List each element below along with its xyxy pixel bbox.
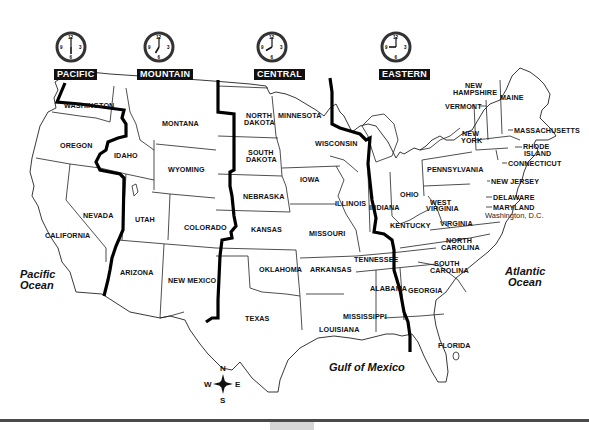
great-salt-lake (132, 184, 138, 196)
compass-n: N (220, 364, 226, 373)
label-delaware: DELAWARE (493, 193, 535, 202)
label-virginia: VIRGINIA (440, 219, 473, 228)
label-kansas: KANSAS (251, 225, 282, 234)
label-minnesota: MINNESOTA (278, 111, 322, 120)
label-new-york-2: YORK (461, 136, 483, 145)
label-north-carolina-2: CAROLINA (441, 243, 480, 252)
clock-central: 12 3 6 9 (258, 33, 286, 61)
label-south-carolina-2: CAROLINA (430, 266, 469, 275)
label-oklahoma: OKLAHOMA (259, 265, 302, 274)
label-rhode-island-2: ISLAND (524, 149, 551, 158)
label-connecticut: CONNECTICUT (508, 159, 562, 168)
label-idaho: IDAHO (114, 151, 138, 160)
label-alabama: ALABAMA (370, 284, 407, 293)
water-labels: Pacific Ocean Atlantic Ocean Gulf of Mex… (20, 265, 545, 373)
compass-w: W (204, 380, 212, 389)
label-new-jersey: NEW JERSEY (491, 177, 539, 186)
zone-label-central: CENTRAL (254, 69, 305, 80)
label-vermont: VERMONT (445, 102, 482, 111)
label-arizona: ARIZONA (120, 268, 153, 277)
label-washington-dc: Washington, D.C. (485, 211, 544, 220)
clock-mountain: 12 3 6 9 (145, 33, 173, 61)
label-washington: WASHINGTON (64, 101, 114, 110)
label-colorado: COLORADO (184, 223, 227, 232)
label-ohio: OHIO (400, 190, 419, 199)
bottom-tab (270, 422, 314, 430)
label-montana: MONTANA (162, 119, 199, 128)
label-indiana: INDIANA (369, 203, 400, 212)
label-florida: FLORIDA (438, 341, 471, 350)
compass-rose: N E S W (204, 364, 241, 405)
label-atlantic-ocean-2: Ocean (508, 276, 542, 288)
label-maine: MAINE (500, 93, 524, 102)
label-nebraska: NEBRASKA (243, 192, 285, 201)
label-kentucky: KENTUCKY (390, 221, 431, 230)
label-south-dakota-2: DAKOTA (246, 155, 277, 164)
clock-pacific: 12 3 6 9 (57, 33, 85, 61)
label-wyoming: WYOMING (168, 165, 205, 174)
label-tennessee: TENNESSEE (354, 255, 399, 264)
label-illinois: ILLINOIS (335, 199, 366, 208)
label-georgia: GEORGIA (408, 286, 443, 295)
label-iowa: IOWA (300, 175, 320, 184)
label-arkansas: ARKANSAS (310, 265, 352, 274)
lake-okeechobee (453, 352, 459, 360)
label-north-dakota-2: DAKOTA (244, 118, 275, 127)
central-eastern-boundary (330, 78, 410, 352)
label-massachusetts: MASSACHUSETTS (514, 126, 580, 135)
label-nevada: NEVADA (83, 211, 113, 220)
label-louisiana: LOUISIANA (319, 325, 359, 334)
compass-s: S (220, 396, 226, 405)
mountain-central-boundary (206, 80, 236, 322)
label-new-mexico: NEW MEXICO (168, 276, 216, 285)
zone-label-mountain: MOUNTAIN (137, 69, 193, 80)
zone-label-eastern: EASTERN (379, 69, 430, 80)
label-gulf-of-mexico: Gulf of Mexico (329, 361, 405, 373)
label-new-hampshire-2: HAMPSHIRE (453, 88, 497, 97)
compass-e: E (235, 380, 241, 389)
label-mississippi: MISSISSIPPI (343, 312, 387, 321)
label-missouri: MISSOURI (309, 229, 345, 238)
label-pacific-ocean-2: Ocean (20, 279, 54, 291)
label-west-virginia-2: VIRGINIA (426, 204, 459, 213)
zone-label-pacific: PACIFIC (54, 69, 97, 80)
leader-lines (480, 106, 522, 207)
label-texas: TEXAS (245, 314, 270, 323)
us-time-zone-map: WASHINGTON OREGON CALIFORNIA NEVADA IDAH… (0, 0, 589, 430)
clock-eastern: 12 3 6 9 (382, 33, 410, 61)
label-utah: UTAH (135, 215, 155, 224)
label-california: CALIFORNIA (45, 231, 90, 240)
label-oregon: OREGON (60, 141, 93, 150)
label-wisconsin: WISCONSIN (315, 139, 357, 148)
label-pennsylvania: PENNSYLVANIA (427, 165, 483, 174)
